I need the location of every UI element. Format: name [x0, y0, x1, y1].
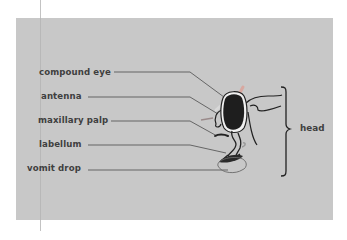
leader-compound-eye [114, 72, 228, 100]
brace-icon [281, 87, 290, 176]
label-antenna: antenna [41, 91, 82, 101]
compound-eye-icon [221, 92, 247, 133]
label-head: head [300, 123, 324, 133]
leader-lines [88, 72, 228, 170]
leader-labellum [88, 145, 226, 153]
label-compound-eye: compound eye [39, 67, 111, 77]
maxillary-palp-icon [215, 135, 228, 137]
leader-antenna [88, 97, 218, 114]
label-labellum: labellum [39, 139, 82, 149]
label-maxillary-palp: maxillary palp [38, 115, 108, 125]
leader-maxillary-palp [111, 121, 217, 136]
label-vomit-drop: vomit drop [27, 163, 81, 173]
